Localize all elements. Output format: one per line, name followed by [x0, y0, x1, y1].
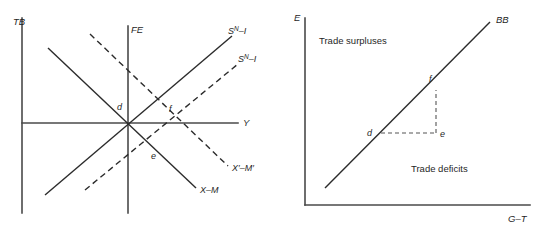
left-y-axis-label: TB [13, 16, 26, 27]
curve-label-x-m: X–M [199, 185, 219, 195]
right-point-label-e: e [440, 129, 445, 139]
left-point-label-e: e [151, 151, 156, 161]
region-label-trade-deficits: Trade deficits [411, 163, 468, 174]
fe-line-label: FE [131, 24, 144, 35]
curve-label-sn-i-tail: –I [238, 26, 247, 36]
bb-line-label: BB [496, 14, 509, 25]
curve-label-sn-i: SN–I [228, 25, 247, 36]
curve-sn-i [45, 36, 232, 195]
right-x-axis-label: G–T [508, 213, 528, 224]
curve-x-m-prime [90, 34, 228, 166]
curve-label-sn-i-prime: SN–I [238, 53, 257, 64]
right-point-label-d: d [367, 128, 373, 138]
region-label-trade-surpluses: Trade surpluses [319, 35, 387, 46]
economics-figure: TB Y FE SN–I SN–I X–M X′–M′ d f e [0, 0, 553, 233]
curve-x-m [48, 48, 196, 188]
right-y-axis-label: E [294, 12, 301, 23]
curve-label-x-m-prime: X′–M′ [231, 163, 254, 173]
left-x-axis-label: Y [243, 117, 250, 128]
curve-sn-i-prime [85, 64, 238, 190]
left-point-label-d: d [117, 102, 123, 112]
left-panel: TB Y FE SN–I SN–I X–M X′–M′ d f e [13, 16, 257, 213]
right-panel: E G–T BB Trade surpluses Trade deficits … [294, 12, 530, 224]
figure-canvas: TB Y FE SN–I SN–I X–M X′–M′ d f e [0, 0, 553, 233]
curve-label-sn-i-prime-tail: –I [248, 54, 257, 64]
